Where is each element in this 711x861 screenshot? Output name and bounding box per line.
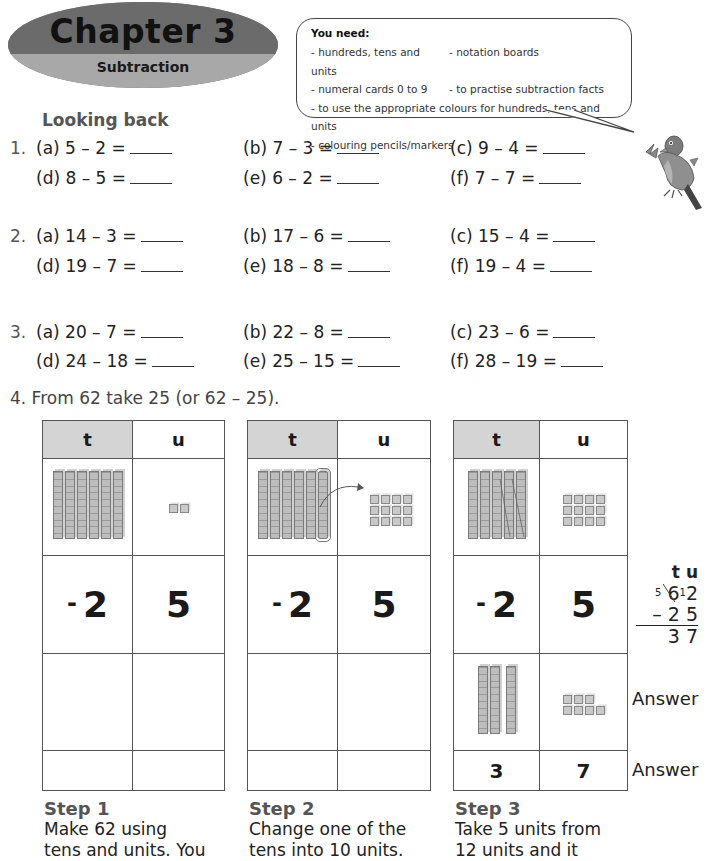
- unit-cubes-icon: [169, 504, 189, 513]
- answer-blank[interactable]: [539, 170, 581, 184]
- answer-blank[interactable]: [130, 140, 172, 154]
- subtrahend-units: 5: [540, 556, 628, 654]
- subtrahend-units: 5: [338, 556, 431, 654]
- you-need-item: - hundreds, tens and units: [311, 43, 449, 80]
- exercise-item: (e) 6 – 2 =: [243, 168, 379, 188]
- result-tens-blocks[interactable]: [248, 654, 338, 751]
- result-tens-blocks[interactable]: [43, 654, 133, 751]
- answer-blank[interactable]: [543, 140, 585, 154]
- answer-blank[interactable]: [348, 324, 390, 338]
- question-number: 2.: [10, 226, 26, 246]
- vertical-sum-header: t u: [628, 562, 698, 583]
- answer-blank[interactable]: [337, 170, 379, 184]
- you-need-bubble: You need: - hundreds, tens and units - n…: [296, 18, 632, 118]
- question-number: 3.: [10, 322, 26, 342]
- result-units-blocks[interactable]: [338, 654, 431, 751]
- step-text: tens and units. You: [44, 840, 234, 861]
- answer-blank[interactable]: [348, 258, 390, 272]
- you-need-item: - notation boards: [449, 43, 539, 80]
- you-need-item: - numeral cards 0 to 9: [311, 80, 449, 99]
- step-3-description: Step 3 Take 5 units from 12 units and it: [455, 798, 645, 861]
- answer-blank[interactable]: [550, 258, 592, 272]
- answer-blank[interactable]: [141, 324, 183, 338]
- exercise-item: (c) 9 – 4 =: [450, 138, 585, 158]
- subtrahend-tens: -2: [248, 556, 338, 654]
- answer-blank[interactable]: [152, 353, 194, 367]
- question-4-prompt: 4. From 62 take 25 (or 62 – 25).: [10, 388, 279, 408]
- exercise-item: (b) 17 – 6 =: [243, 226, 390, 246]
- vertical-sum-minuend: 5 612: [628, 583, 698, 604]
- chapter-title: Chapter 3: [8, 12, 278, 51]
- answer-units-cell: 7: [540, 751, 628, 791]
- answer-blank[interactable]: [130, 170, 172, 184]
- tens-blocks: [454, 459, 540, 556]
- result-units-blocks: [540, 654, 628, 751]
- unit-cubes-icon: [563, 495, 605, 526]
- column-header-tens: t: [43, 421, 133, 459]
- answer-units-cell[interactable]: [133, 751, 225, 791]
- step-text: Make 62 using: [44, 819, 234, 840]
- units-blocks: [133, 459, 225, 556]
- answer-blank[interactable]: [561, 353, 603, 367]
- exercise-item: (d) 19 – 7 =: [36, 256, 183, 276]
- exercise-item: (f) 7 – 7 =: [450, 168, 581, 188]
- tens-rods-icon: [258, 471, 328, 539]
- answer-label-digits: Answer: [632, 759, 698, 780]
- step-text: 12 units and it: [455, 840, 645, 861]
- step-1-description: Step 1 Make 62 using tens and units. You: [44, 798, 234, 861]
- you-need-row: - hundreds, tens and units - notation bo…: [311, 43, 619, 80]
- units-blocks: [338, 459, 431, 556]
- tens-rods-icon: [53, 471, 123, 539]
- column-header-tens: t: [454, 421, 540, 459]
- answer-blank[interactable]: [141, 258, 183, 272]
- answer-units-cell[interactable]: [338, 751, 431, 791]
- answer-tens-cell: 3: [454, 751, 540, 791]
- strike-icon: [663, 584, 677, 604]
- exercise-item: (e) 25 – 15 =: [243, 351, 400, 371]
- answer-tens-cell[interactable]: [248, 751, 338, 791]
- result-units-blocks[interactable]: [133, 654, 225, 751]
- you-need-row: - numeral cards 0 to 9 - to practise sub…: [311, 80, 619, 99]
- tens-rods-icon: [468, 471, 526, 539]
- you-need-item: - to practise subtraction facts: [449, 80, 604, 99]
- crossed-out-rods-icon: [498, 479, 528, 539]
- column-header-units: u: [133, 421, 225, 459]
- exercise-item: (d) 24 – 18 =: [36, 351, 194, 371]
- vertical-subtraction: t u 5 612 – 2 5 3 7: [628, 562, 698, 647]
- column-header-units: u: [540, 421, 628, 459]
- exercise-item: (f) 19 – 4 =: [450, 256, 592, 276]
- step-text: Take 5 units from: [455, 819, 645, 840]
- exercise-item: (a) 5 – 2 =: [36, 138, 172, 158]
- tens-rods-icon: [478, 666, 516, 734]
- exercise-item: (f) 28 – 19 =: [450, 351, 603, 371]
- bubble-tail-icon: [540, 110, 640, 140]
- exchange-arrow-icon: [318, 479, 368, 509]
- answer-tens-cell[interactable]: [43, 751, 133, 791]
- exercise-item: (e) 18 – 8 =: [243, 256, 390, 276]
- place-value-board-step-1: t u -2 5: [42, 420, 225, 791]
- unit-cubes-icon: [563, 695, 605, 715]
- step-text: tens into 10 units.: [249, 840, 439, 861]
- subtrahend-tens: -2: [454, 556, 540, 654]
- answer-blank[interactable]: [553, 228, 595, 242]
- exercise-item: (a) 20 – 7 =: [36, 322, 183, 342]
- units-blocks: [540, 459, 628, 556]
- exercise-item: (c) 15 – 4 =: [450, 226, 595, 246]
- chapter-subtitle: Subtraction: [8, 59, 278, 75]
- answer-blank[interactable]: [337, 140, 379, 154]
- step-label: Step 1: [44, 798, 234, 819]
- place-value-board-step-3: t u -2 5: [453, 420, 628, 791]
- column-header-tens: t: [248, 421, 338, 459]
- subtrahend-tens: -2: [43, 556, 133, 654]
- answer-blank[interactable]: [358, 353, 400, 367]
- exercise-item: (b) 22 – 8 =: [243, 322, 390, 342]
- unit-cubes-icon: [370, 495, 412, 526]
- step-label: Step 3: [455, 798, 645, 819]
- answer-blank[interactable]: [348, 228, 390, 242]
- answer-blank[interactable]: [141, 228, 183, 242]
- step-text: Change one of the: [249, 819, 439, 840]
- answer-blank[interactable]: [553, 324, 595, 338]
- step-2-description: Step 2 Change one of the tens into 10 un…: [249, 798, 439, 861]
- place-value-board-step-2: t u -2 5: [247, 420, 431, 791]
- exercise-item: (c) 23 – 6 =: [450, 322, 595, 342]
